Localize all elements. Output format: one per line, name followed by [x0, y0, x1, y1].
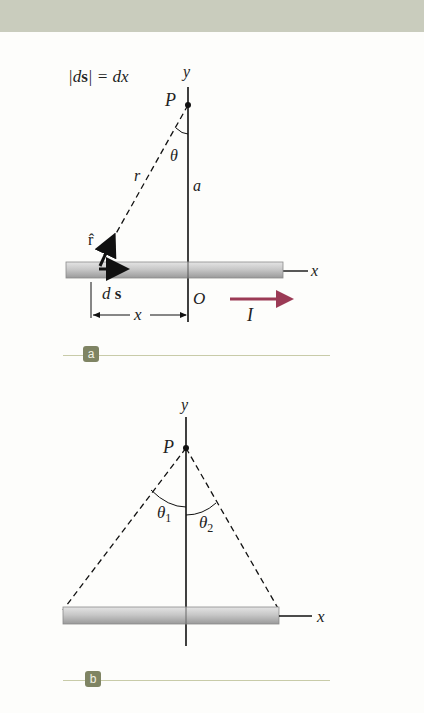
ds-s: s — [115, 284, 122, 303]
equation-vector: s — [81, 67, 88, 86]
ds-label: d s — [102, 285, 121, 302]
r-label: r — [134, 168, 140, 184]
point-p-label-a: P — [165, 91, 176, 109]
r-hat-label: r̂ — [88, 232, 93, 248]
ds-d: d — [102, 284, 111, 303]
y-axis-label-a: y — [183, 64, 190, 80]
current-label: I — [247, 306, 253, 324]
ds-magnitude-equation: |ds| = dx — [68, 68, 129, 85]
theta-label: θ — [170, 148, 178, 164]
theta2-subscript: 2 — [207, 521, 213, 535]
x-axis-label-b: x — [317, 608, 325, 625]
figure-a-drawing — [0, 0, 424, 713]
figure-a-badge: a — [83, 346, 99, 362]
x-distance-label: x — [134, 306, 142, 323]
theta2-label: θ2 — [199, 514, 213, 534]
point-p-label-b: P — [163, 438, 174, 456]
y-axis-label-b: y — [181, 397, 188, 413]
x-axis-label-a: x — [311, 263, 318, 279]
equation-lhs: |d — [68, 67, 81, 86]
origin-label: O — [193, 290, 205, 307]
theta1-label: θ1 — [157, 504, 171, 524]
figure-b-badge: b — [85, 671, 101, 687]
caption-rule-b — [63, 680, 330, 681]
equation-rhs: | = dx — [88, 67, 129, 86]
caption-rule-a — [63, 355, 330, 356]
theta1-subscript: 1 — [165, 511, 171, 525]
a-label: a — [193, 178, 201, 194]
